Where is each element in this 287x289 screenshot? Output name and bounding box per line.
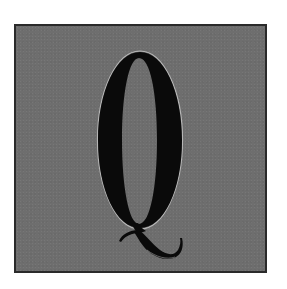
- q-bowl: [98, 52, 182, 228]
- q-glyph-icon: [0, 0, 287, 289]
- q-tail: [134, 229, 183, 259]
